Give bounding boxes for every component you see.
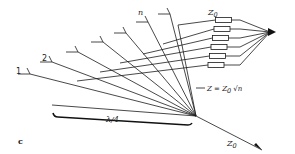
element-spur bbox=[145, 16, 148, 22]
radiating-element bbox=[78, 52, 196, 116]
resistor bbox=[210, 54, 226, 59]
element-label-2: 2 bbox=[42, 54, 47, 63]
resistor bbox=[211, 45, 227, 50]
wavelength-label: λ/4 bbox=[105, 115, 119, 124]
element-spur bbox=[123, 27, 126, 33]
element-label-1: 1 bbox=[16, 67, 21, 76]
element-spur bbox=[167, 8, 170, 14]
element-spur bbox=[75, 46, 78, 52]
rung-line bbox=[100, 56, 210, 72]
cross-lines bbox=[77, 20, 216, 116]
converging-line bbox=[240, 32, 270, 47]
converging-line bbox=[240, 32, 270, 56]
panel-label: c bbox=[18, 136, 23, 146]
element-spur bbox=[49, 56, 52, 62]
resistor bbox=[216, 18, 232, 23]
resistor bbox=[214, 27, 230, 32]
antenna-diagram: 1 2 n Z0 Z = Z0√n λ/4 Z0 c bbox=[0, 0, 295, 154]
element-label-n: n bbox=[138, 8, 143, 17]
quarter-wave-bracket bbox=[53, 113, 192, 125]
radiating-element bbox=[103, 42, 196, 116]
feed-label: Z0 bbox=[226, 139, 237, 150]
resistor bbox=[208, 63, 224, 68]
spine-line bbox=[178, 25, 196, 116]
impedance-label: Z = Z0√n bbox=[206, 85, 243, 95]
rung-line bbox=[143, 38, 213, 54]
resistor-bank bbox=[208, 18, 270, 68]
element-spur bbox=[27, 68, 30, 74]
rung-line bbox=[163, 29, 214, 44]
summing-point-arrow bbox=[268, 28, 276, 36]
radiating-element bbox=[52, 62, 196, 116]
rung-line bbox=[120, 47, 211, 63]
resistor-label: Z0 bbox=[207, 8, 218, 19]
rung-line bbox=[178, 20, 216, 25]
element-spur bbox=[100, 36, 103, 42]
resistor bbox=[213, 36, 229, 41]
